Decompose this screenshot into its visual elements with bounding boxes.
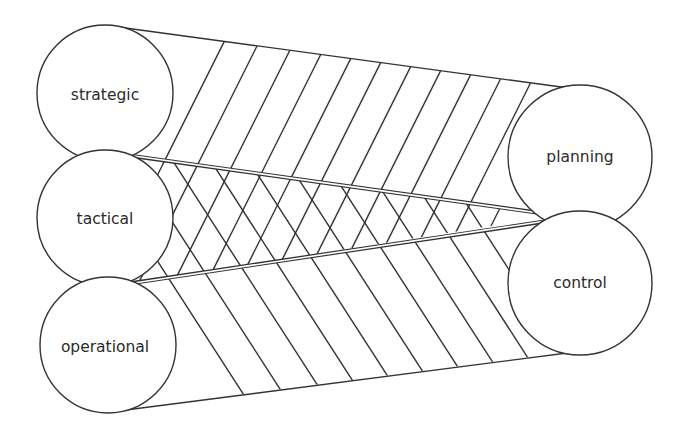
operational-label: operational — [61, 338, 149, 356]
planning-label: planning — [546, 148, 613, 166]
tactical-label: tactical — [77, 210, 134, 228]
right-nodes: planning control — [508, 85, 652, 355]
upper-double-line — [132, 156, 548, 214]
control-label: control — [553, 274, 607, 292]
left-nodes: strategic tactical operational — [37, 25, 176, 413]
double-lines — [132, 156, 548, 283]
node-planning: planning — [508, 85, 652, 229]
node-control: control — [508, 211, 652, 355]
node-tactical: tactical — [37, 150, 173, 286]
node-operational: operational — [40, 277, 176, 413]
strategic-label: strategic — [71, 86, 139, 104]
outer-edges — [118, 27, 598, 411]
node-strategic: strategic — [37, 25, 173, 161]
top-edge-line — [118, 27, 598, 92]
bottom-edge-line — [118, 352, 575, 411]
lower-double-line — [132, 221, 548, 283]
planning-control-diagram: strategic tactical operational planning … — [0, 0, 687, 424]
